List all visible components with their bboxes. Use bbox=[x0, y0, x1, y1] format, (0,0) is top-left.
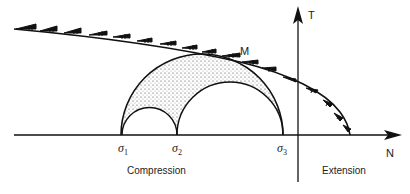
mohr-circle-diagram: T N M σ1 σ2 σ3 Compression Extension bbox=[0, 0, 410, 194]
t-axis-label: T bbox=[308, 10, 315, 21]
compression-label: Compression bbox=[127, 166, 186, 176]
sigma-2-label: σ2 bbox=[172, 142, 182, 157]
sigma-3-label: σ3 bbox=[277, 142, 287, 157]
point-m-label: M bbox=[240, 46, 249, 57]
sigma-1-label: σ1 bbox=[118, 142, 128, 157]
n-axis-label: N bbox=[386, 148, 394, 159]
extension-label: Extension bbox=[322, 166, 366, 176]
